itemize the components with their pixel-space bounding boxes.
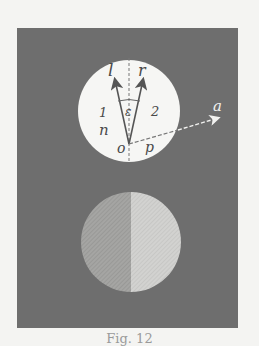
label-r: r xyxy=(138,61,147,80)
label-2: 2 xyxy=(150,104,159,119)
bottom-split-circle xyxy=(81,192,181,292)
label-o: o xyxy=(117,140,125,156)
label-p: p xyxy=(145,139,154,155)
figure-caption: Fig. 12 xyxy=(0,331,259,346)
label-l: l xyxy=(108,60,113,80)
label-a: a xyxy=(213,97,222,115)
label-n: n xyxy=(99,121,109,139)
label-epsilon: ε xyxy=(125,105,131,119)
label-1: 1 xyxy=(99,105,107,120)
